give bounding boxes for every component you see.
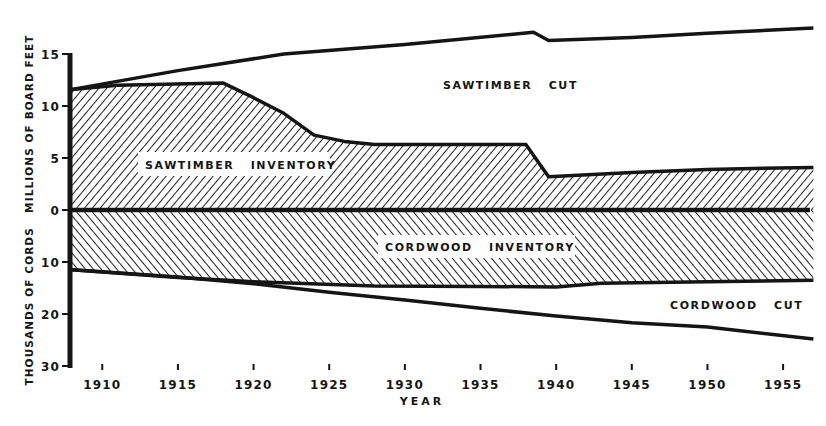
cordwood-cut-label: CORDWOOD CUT	[670, 299, 803, 312]
x-tick-label: 1930	[386, 378, 424, 392]
y-tick-label: 15	[41, 48, 60, 62]
sawtimber-inventory-label: SAWTIMBER INVENTORY	[145, 159, 336, 172]
y-tick-label: 10	[41, 256, 60, 270]
x-tick-label: 1920	[234, 378, 272, 392]
sawtimber-inventory-area	[72, 83, 813, 210]
x-axis-ticks: 1910191519201925193019351940194519501955	[83, 364, 802, 392]
x-axis-title: YEAR	[399, 395, 444, 408]
x-tick-label: 1935	[461, 378, 499, 392]
y-tick-label: 10	[41, 100, 60, 114]
x-tick-label: 1955	[764, 378, 802, 392]
y-tick-label: 0	[50, 204, 60, 218]
x-tick-label: 1945	[613, 378, 651, 392]
x-tick-label: 1950	[688, 378, 726, 392]
x-tick-label: 1910	[83, 378, 121, 392]
y-tick-label: 30	[41, 360, 60, 374]
y-tick-label: 5	[50, 152, 60, 166]
y-axis-ticks: 151050102030	[41, 48, 70, 374]
y-axis-title: THOUSANDS OF CORDS MILLIONS OF BOARD FEE…	[23, 34, 35, 385]
y-tick-label: 20	[41, 308, 60, 322]
sawtimber-cut-label: SAWTIMBER CUT	[443, 79, 578, 92]
x-tick-label: 1915	[159, 378, 197, 392]
x-tick-label: 1925	[310, 378, 348, 392]
cordwood-inventory-label: CORDWOOD INVENTORY	[385, 241, 575, 254]
chart: 151050102030 191019151920192519301935194…	[0, 0, 826, 426]
x-tick-label: 1940	[537, 378, 575, 392]
